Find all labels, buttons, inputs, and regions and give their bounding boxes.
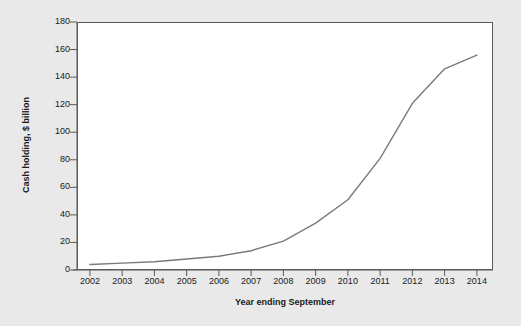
y-tick-label-text: 160: [42, 45, 70, 54]
y-tick-label-text: 120: [42, 100, 70, 109]
y-tick-label: 0: [42, 265, 70, 274]
y-tick-label-text: 140: [42, 72, 70, 81]
y-tick-label-text: 60: [42, 182, 70, 191]
y-tick-label: 140: [42, 72, 70, 81]
y-tick-label: 80: [42, 155, 70, 164]
y-tick-label-text: 20: [42, 237, 70, 246]
y-tick-label: 100: [42, 127, 70, 136]
y-tick-label: 40: [42, 210, 70, 219]
y-tick-label-text: 40: [42, 210, 70, 219]
y-tick-label: 60: [42, 182, 70, 191]
data-series-line: [90, 55, 477, 264]
chart-figure: 020406080100120140160180 200220032004200…: [0, 0, 521, 326]
y-tick-label-text: 0: [42, 265, 70, 274]
y-tick-label: 20: [42, 237, 70, 246]
y-tick-label-text: 100: [42, 127, 70, 136]
y-tick-label-text: 80: [42, 155, 70, 164]
y-tick-label: 180: [42, 17, 70, 26]
x-axis-title: Year ending September: [77, 297, 493, 307]
y-axis-ticks: [70, 22, 77, 270]
y-tick-label: 160: [42, 45, 70, 54]
y-tick-label: 120: [42, 100, 70, 109]
x-tick-label: 2014: [457, 276, 497, 286]
y-axis-title: Cash holding, $ billion: [21, 55, 31, 235]
y-tick-label-text: 180: [42, 17, 70, 26]
